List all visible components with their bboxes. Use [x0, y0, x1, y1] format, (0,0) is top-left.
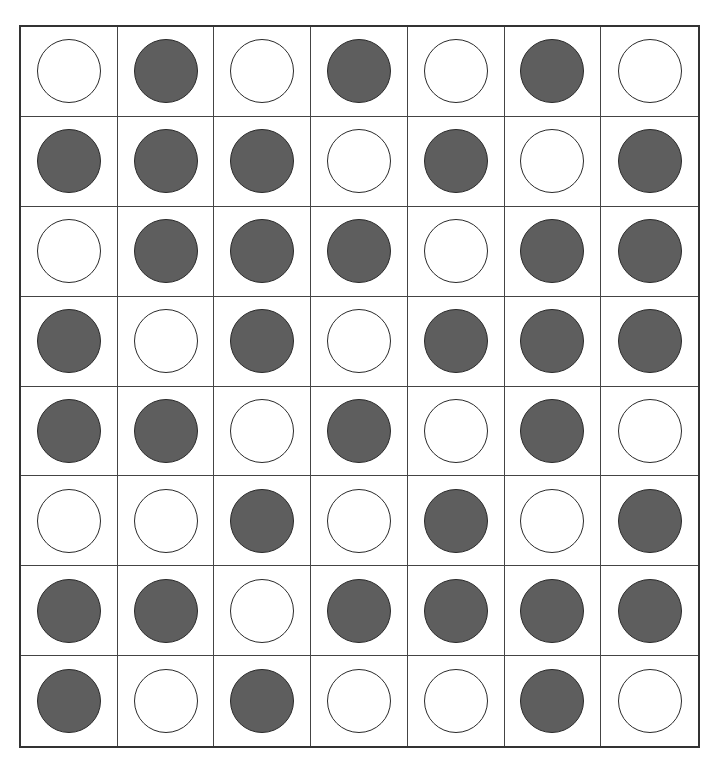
grid-cell	[601, 207, 698, 297]
grid-cell	[214, 207, 311, 297]
grid-cell	[21, 476, 118, 566]
empty-circle-icon	[424, 399, 488, 463]
circle-grid	[19, 25, 700, 748]
filled-circle-icon	[520, 399, 584, 463]
filled-circle-icon	[134, 39, 198, 103]
filled-circle-icon	[618, 309, 682, 373]
empty-circle-icon	[134, 489, 198, 553]
empty-circle-icon	[618, 399, 682, 463]
grid-cell	[505, 117, 602, 207]
grid-cell	[118, 27, 215, 117]
filled-circle-icon	[520, 579, 584, 643]
filled-circle-icon	[520, 219, 584, 283]
grid-cell	[214, 566, 311, 656]
grid-cell	[214, 117, 311, 207]
grid-cell	[214, 297, 311, 387]
empty-circle-icon	[134, 309, 198, 373]
grid-cell	[311, 476, 408, 566]
grid-cell	[601, 476, 698, 566]
grid-cell	[505, 566, 602, 656]
filled-circle-icon	[230, 219, 294, 283]
grid-cell	[601, 387, 698, 477]
filled-circle-icon	[618, 579, 682, 643]
filled-circle-icon	[618, 489, 682, 553]
grid-cell	[118, 297, 215, 387]
empty-circle-icon	[327, 309, 391, 373]
grid-cell	[21, 387, 118, 477]
filled-circle-icon	[134, 129, 198, 193]
grid-cell	[118, 566, 215, 656]
grid-cell	[118, 476, 215, 566]
grid-cell	[214, 387, 311, 477]
grid-cell	[214, 27, 311, 117]
grid-cell	[21, 207, 118, 297]
filled-circle-icon	[37, 669, 101, 733]
empty-circle-icon	[327, 129, 391, 193]
grid-cell	[311, 27, 408, 117]
grid-cell	[118, 387, 215, 477]
grid-cell	[21, 297, 118, 387]
grid-cell	[601, 566, 698, 656]
filled-circle-icon	[520, 309, 584, 373]
grid-cell	[408, 207, 505, 297]
filled-circle-icon	[618, 129, 682, 193]
grid-cell	[505, 297, 602, 387]
grid-cell	[311, 117, 408, 207]
filled-circle-icon	[327, 219, 391, 283]
grid-cell	[408, 476, 505, 566]
filled-circle-icon	[618, 219, 682, 283]
filled-circle-icon	[424, 489, 488, 553]
grid-cell	[408, 297, 505, 387]
grid-cell	[505, 207, 602, 297]
grid-cell	[408, 656, 505, 746]
grid-cell	[311, 656, 408, 746]
grid-cell	[21, 27, 118, 117]
filled-circle-icon	[230, 129, 294, 193]
grid-cell	[601, 297, 698, 387]
empty-circle-icon	[134, 669, 198, 733]
grid-cell	[601, 117, 698, 207]
grid-cell	[21, 117, 118, 207]
grid-cell	[214, 476, 311, 566]
empty-circle-icon	[618, 669, 682, 733]
grid-cell	[118, 207, 215, 297]
empty-circle-icon	[424, 39, 488, 103]
empty-circle-icon	[424, 669, 488, 733]
grid-cell	[311, 566, 408, 656]
grid-cell	[505, 387, 602, 477]
filled-circle-icon	[37, 129, 101, 193]
filled-circle-icon	[37, 579, 101, 643]
grid-cell	[118, 117, 215, 207]
filled-circle-icon	[230, 669, 294, 733]
empty-circle-icon	[230, 399, 294, 463]
filled-circle-icon	[37, 399, 101, 463]
grid-cell	[311, 387, 408, 477]
empty-circle-icon	[230, 39, 294, 103]
filled-circle-icon	[520, 39, 584, 103]
grid-cell	[505, 476, 602, 566]
filled-circle-icon	[134, 219, 198, 283]
empty-circle-icon	[327, 669, 391, 733]
filled-circle-icon	[424, 129, 488, 193]
filled-circle-icon	[230, 489, 294, 553]
grid-cell	[311, 207, 408, 297]
filled-circle-icon	[520, 669, 584, 733]
grid-cell	[118, 656, 215, 746]
filled-circle-icon	[134, 399, 198, 463]
filled-circle-icon	[327, 579, 391, 643]
empty-circle-icon	[618, 39, 682, 103]
filled-circle-icon	[327, 39, 391, 103]
empty-circle-icon	[520, 489, 584, 553]
grid-cell	[408, 117, 505, 207]
filled-circle-icon	[327, 399, 391, 463]
grid-cell	[601, 656, 698, 746]
grid-cell	[408, 27, 505, 117]
empty-circle-icon	[327, 489, 391, 553]
filled-circle-icon	[37, 309, 101, 373]
grid-cell	[214, 656, 311, 746]
filled-circle-icon	[230, 309, 294, 373]
empty-circle-icon	[37, 489, 101, 553]
grid-cell	[21, 566, 118, 656]
empty-circle-icon	[520, 129, 584, 193]
filled-circle-icon	[424, 309, 488, 373]
